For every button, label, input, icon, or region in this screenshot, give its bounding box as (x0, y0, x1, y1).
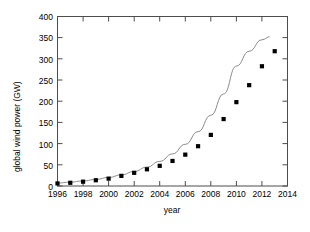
y-tick-label: 250 (28, 76, 53, 86)
data-point (94, 178, 98, 182)
data-point (132, 171, 136, 175)
data-point (158, 164, 162, 168)
data-point (183, 153, 187, 157)
x-tick-label: 2010 (223, 189, 249, 199)
fit-curve (58, 37, 270, 183)
data-point (247, 83, 251, 87)
data-point (209, 133, 213, 137)
data-point (273, 49, 277, 53)
x-tick-label: 2008 (198, 189, 224, 199)
x-tick-label: 1996 (45, 189, 71, 199)
x-tick-label: 2006 (172, 189, 198, 199)
x-tick-label: 2014 (275, 189, 301, 199)
y-tick-label: 300 (28, 55, 53, 65)
x-axis-title: year (132, 205, 212, 215)
data-point (145, 167, 149, 171)
data-point (196, 144, 200, 148)
data-point (107, 177, 111, 181)
y-tick-label: 50 (28, 161, 53, 171)
y-tick-label: 400 (28, 12, 53, 22)
data-point (260, 64, 264, 68)
data-point (68, 181, 72, 185)
data-point (55, 181, 59, 185)
chart-figure: 400 350 300 250 200 150 100 50 0 1996 19… (0, 0, 310, 232)
y-axis-title: global wind power (GW) (12, 81, 22, 172)
x-tick-label: 2012 (249, 189, 275, 199)
data-point (119, 174, 123, 178)
data-point (222, 117, 226, 121)
data-point (234, 100, 238, 104)
x-tick-label: 1998 (70, 189, 96, 199)
y-tick-label: 350 (28, 33, 53, 43)
x-tick-label: 2002 (121, 189, 147, 199)
x-tick-label: 2004 (147, 189, 173, 199)
data-point (170, 159, 174, 163)
data-point-group (55, 49, 276, 185)
y-tick-label: 150 (28, 118, 53, 128)
y-tick-label: 100 (28, 140, 53, 150)
data-point (81, 180, 85, 184)
x-tick-label: 2000 (96, 189, 122, 199)
y-tick-label: 200 (28, 97, 53, 107)
